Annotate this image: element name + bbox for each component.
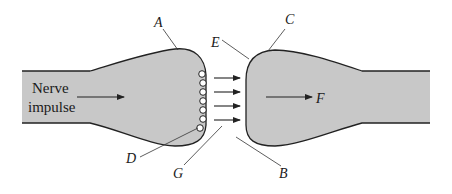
label-f: F — [315, 91, 325, 106]
label-a: A — [153, 15, 163, 30]
label-d: D — [125, 151, 136, 166]
postsynaptic-terminal — [246, 50, 430, 146]
nerve-label: Nerve — [32, 80, 69, 96]
label-b: B — [279, 166, 288, 181]
synapse-svg: Nerve impulse A C E F D G B — [0, 0, 452, 194]
cleft-arrows — [214, 78, 240, 120]
synapse-diagram: Nerve impulse A C E F D G B — [0, 0, 452, 194]
impulse-label: impulse — [28, 99, 76, 115]
label-g: G — [173, 166, 183, 181]
label-c: C — [285, 12, 295, 27]
label-e: E — [210, 35, 220, 50]
